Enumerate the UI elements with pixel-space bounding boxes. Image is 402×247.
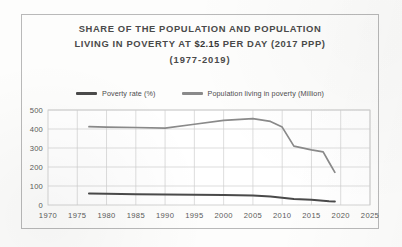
y-axis-tick-label: 300 — [30, 144, 43, 153]
x-axis-tick-label: 2015 — [302, 211, 320, 220]
x-axis-tick-label: 2005 — [244, 211, 262, 220]
x-axis-tick-label: 2025 — [361, 211, 379, 220]
x-axis-tick-label: 2000 — [214, 211, 232, 220]
y-axis-tick-label: 0 — [39, 201, 43, 210]
y-axis-tick-label: 100 — [30, 182, 43, 191]
legend-label-poverty-rate: Poverty rate (%) — [102, 89, 156, 98]
x-axis-tick-label: 2020 — [332, 211, 350, 220]
y-axis-tick-label: 500 — [30, 106, 43, 115]
plot-area: 0100200300400500197019751980198519901995… — [21, 104, 379, 229]
chart-legend: Poverty rate (%) Population living in po… — [21, 89, 379, 98]
x-axis-tick-label: 1985 — [127, 211, 145, 220]
chart-title-line-3: (1977-2019) — [21, 52, 379, 67]
plot-background — [48, 110, 370, 205]
x-axis-tick-label: 1980 — [97, 211, 115, 220]
x-axis-tick-label: 1995 — [185, 211, 203, 220]
x-axis-tick-label: 1990 — [156, 211, 174, 220]
x-axis-tick-label: 1975 — [68, 211, 86, 220]
chart-title-line-2: LIVING IN POVERTY AT $2.15 PER DAY (2017… — [21, 36, 379, 51]
legend-item-population: Population living in poverty (Million) — [182, 89, 324, 98]
chart-title-line-2-prefix: LIVING IN POVERTY AT — [74, 38, 194, 49]
y-axis-tick-label: 400 — [30, 125, 43, 134]
legend-item-poverty-rate: Poverty rate (%) — [76, 89, 156, 98]
chart-title-line-2-suffix: PER DAY (2017 PPP) — [220, 38, 326, 49]
legend-swatch-poverty-rate — [76, 92, 97, 94]
chart-title: SHARE OF THE POPULATION AND POPULATION L… — [21, 21, 379, 67]
scanned-page: SHARE OF THE POPULATION AND POPULATION L… — [0, 0, 402, 247]
chart-title-amount: $2.15 — [195, 38, 220, 49]
chart-title-line-1: SHARE OF THE POPULATION AND POPULATION — [21, 21, 379, 36]
x-axis-tick-label: 2010 — [273, 211, 291, 220]
line-chart-svg: 0100200300400500197019751980198519901995… — [21, 104, 379, 229]
y-axis-tick-label: 200 — [30, 163, 43, 172]
x-axis-tick-label: 1970 — [39, 211, 57, 220]
legend-swatch-population — [182, 92, 203, 94]
legend-label-population: Population living in poverty (Million) — [208, 89, 324, 98]
